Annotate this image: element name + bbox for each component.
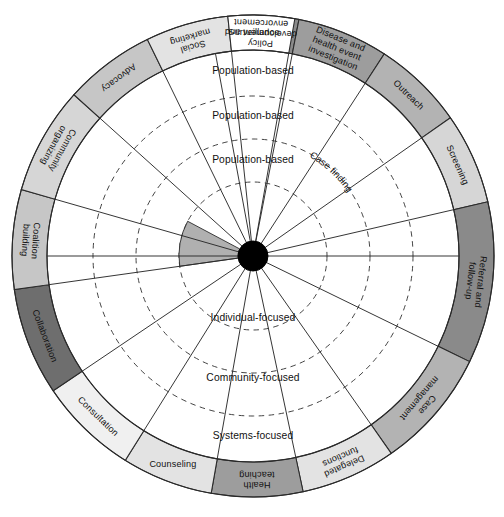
center-hub <box>238 241 268 271</box>
outer-segment-label-line: Counseling <box>149 459 196 469</box>
radial-spoke <box>144 267 246 431</box>
outer-segment-label: Healthteaching <box>239 470 275 491</box>
outer-segment-label-line: teaching <box>239 470 275 481</box>
radial-spoke <box>255 53 289 243</box>
radial-spoke <box>260 267 371 425</box>
radial-spoke <box>265 262 438 347</box>
center-hub-group <box>238 241 268 271</box>
wheel-canvas: SurveillanceDisease andhealth eventinves… <box>0 0 504 517</box>
ring-label-focus: Community-focused <box>206 372 299 383</box>
ring-label-population: Population-based <box>212 154 294 165</box>
ring-label-population: Population-based <box>212 110 294 121</box>
outer-segment-label-line: Health <box>243 480 270 490</box>
outer-segment-label: Coalitionbuilding <box>19 221 42 259</box>
radial-spoke <box>266 210 454 253</box>
outer-segment-label-line: envorcement <box>234 17 289 29</box>
curved-ring-label: Case finding <box>309 149 356 194</box>
outer-segment-label-line: Policy <box>247 38 273 49</box>
intervention-wheel-diagram: SurveillanceDisease andhealth eventinves… <box>0 0 504 517</box>
radial-spoke <box>49 258 240 285</box>
ring-label-population: Population-based <box>212 65 294 76</box>
radial-spoke <box>231 51 251 243</box>
radial-spoke <box>255 54 292 243</box>
radial-spoke <box>55 199 241 252</box>
ring-label-focus: Individual-focused <box>211 312 296 323</box>
ring-label-focus: Systems-focused <box>213 430 294 441</box>
outer-segment-label: Counseling <box>149 459 196 469</box>
radial-spoke <box>100 118 243 247</box>
